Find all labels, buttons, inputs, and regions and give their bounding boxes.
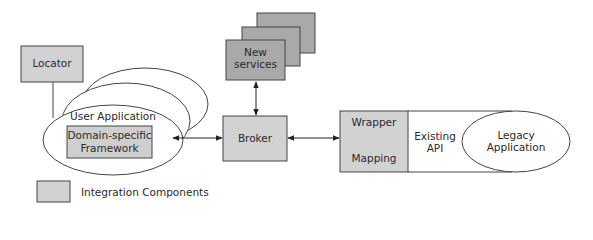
new-services-label-line2: services (226, 58, 285, 71)
existing-api-label-line2: API (410, 142, 460, 155)
mapping-label: Mapping (340, 152, 408, 165)
wrapper-label: Wrapper (340, 116, 408, 129)
domain-framework-label-line2: Framework (67, 142, 152, 155)
legacy-application-label-line2: Application (462, 141, 570, 154)
legend-swatch (37, 181, 70, 202)
locator-label: Locator (21, 57, 83, 70)
domain-framework-label-line1: Domain-specific (67, 129, 152, 142)
user-application-label: User Application (60, 110, 166, 123)
legend-label: Integration Components (81, 186, 209, 199)
broker-label: Broker (223, 132, 287, 145)
